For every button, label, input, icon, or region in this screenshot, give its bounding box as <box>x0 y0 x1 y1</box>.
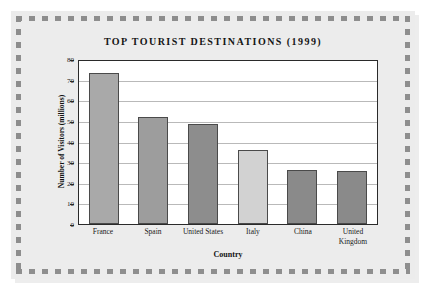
y-axis-tick-label: 0 <box>30 221 74 229</box>
plot-area <box>78 60 378 225</box>
y-axis-tick-label: 30 <box>30 159 74 167</box>
bar-chart: TOP TOURIST DESTINATIONS (1999) Number o… <box>24 24 402 266</box>
frame-dash-top-icon <box>16 16 410 21</box>
frame-dash-left-icon <box>16 16 21 274</box>
y-axis-tick-mark <box>70 81 74 82</box>
bar-slot <box>178 61 227 224</box>
x-axis-tick-label: France <box>78 227 128 247</box>
bar-slot <box>278 61 327 224</box>
y-axis-tick-mark <box>70 122 74 123</box>
x-axis-tick-labels: FranceSpainUnited StatesItalyChinaUnited… <box>78 227 378 247</box>
y-axis-tick-mark <box>70 184 74 185</box>
x-axis-tick-label: United States <box>178 227 228 247</box>
y-axis-tick-label: 60 <box>30 97 74 105</box>
x-axis-tick-label: Spain <box>128 227 178 247</box>
y-axis-tick-mark <box>70 163 74 164</box>
y-axis-tick-label: 70 <box>30 77 74 85</box>
y-axis-tick-mark <box>70 60 74 61</box>
bar[interactable] <box>89 73 119 224</box>
x-axis-tick-label: United Kingdom <box>328 227 378 247</box>
bar-slot <box>228 61 277 224</box>
decorative-frame: TOP TOURIST DESTINATIONS (1999) Number o… <box>11 11 415 279</box>
bar-slot <box>129 61 178 224</box>
y-axis-tick-mark <box>70 101 74 102</box>
y-axis-tick-mark <box>70 225 74 226</box>
bar-slot <box>79 61 128 224</box>
y-axis-tick-label: 20 <box>30 180 74 188</box>
bar[interactable] <box>138 117 168 224</box>
y-axis-tick-label: 40 <box>30 139 74 147</box>
bar[interactable] <box>238 150 268 224</box>
frame-dash-bottom-icon <box>16 269 410 274</box>
frame-dash-right-icon <box>405 16 410 274</box>
y-axis-tick-label: 10 <box>30 200 74 208</box>
y-axis-tick-label: 50 <box>30 118 74 126</box>
y-axis: 80706050403020100 <box>24 60 74 225</box>
bars-container <box>79 61 377 224</box>
x-axis-tick-label: China <box>278 227 328 247</box>
x-axis-tick-label: Italy <box>228 227 278 247</box>
chart-panel: TOP TOURIST DESTINATIONS (1999) Number o… <box>24 24 402 266</box>
y-axis-tick-mark <box>70 143 74 144</box>
bar-slot <box>327 61 376 224</box>
bar[interactable] <box>337 171 367 224</box>
y-axis-tick-mark <box>70 204 74 205</box>
y-axis-tick-label: 80 <box>30 56 74 64</box>
chart-title: TOP TOURIST DESTINATIONS (1999) <box>24 36 402 47</box>
bar[interactable] <box>188 124 218 224</box>
bar[interactable] <box>287 170 317 224</box>
x-axis-title: Country <box>78 250 378 259</box>
